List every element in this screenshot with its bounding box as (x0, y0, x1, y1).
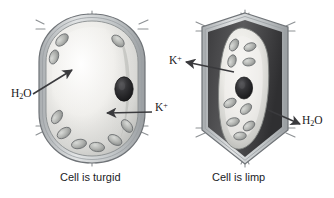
label-h2o-influx: H2O (11, 88, 32, 101)
caption-turgid: Cell is turgid (60, 172, 121, 183)
turgid-cell-illustration (33, 11, 152, 166)
label-k-influx: K+ (155, 102, 168, 114)
caption-limp: Cell is limp (212, 172, 265, 183)
label-k-efflux: K+ (169, 55, 182, 67)
k-influx-arrow (107, 112, 152, 113)
cell-diagram-canvas (0, 0, 334, 198)
limp-cell-illustration (186, 10, 300, 167)
turgid-nucleolus (119, 82, 125, 90)
cell-turgor-figure: H2O K+ K+ H2O Cell is turgid Cell is lim… (0, 0, 334, 198)
limp-nucleolus (239, 81, 245, 88)
label-h2o-efflux: H2O (302, 115, 323, 128)
limp-nucleus (235, 77, 252, 99)
